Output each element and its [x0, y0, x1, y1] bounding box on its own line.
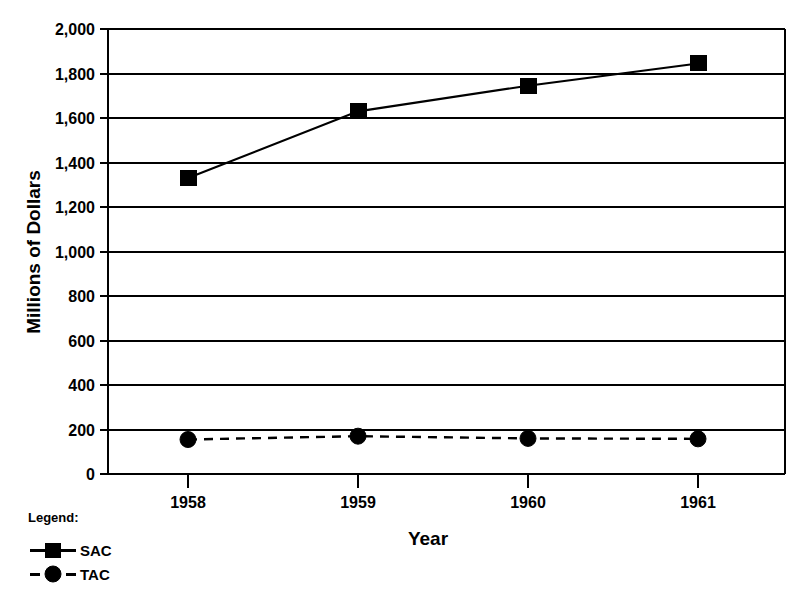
legend-label-tac: TAC — [80, 566, 110, 583]
y-tick-label-1600: 1,600 — [55, 110, 95, 127]
data-point-sac-1959 — [350, 104, 366, 119]
data-point-tac-1959 — [350, 428, 366, 444]
line-chart: 2,000 1,800 1,600 1,400 1,200 1,000 800 … — [0, 0, 800, 596]
y-tick-label-1800: 1,800 — [55, 66, 95, 83]
y-tick-label-0: 0 — [86, 466, 95, 483]
y-tick-label-800: 800 — [68, 288, 95, 305]
data-point-sac-1961 — [690, 56, 706, 71]
y-tick-label-2000: 2,000 — [55, 21, 95, 38]
legend-label-sac: SAC — [80, 542, 112, 559]
data-point-sac-1958 — [180, 171, 196, 186]
data-point-sac-1960 — [520, 78, 536, 93]
chart-container: 2,000 1,800 1,600 1,400 1,200 1,000 800 … — [0, 0, 800, 596]
x-tick-label-1961: 1961 — [680, 494, 716, 511]
data-point-tac-1960 — [520, 430, 536, 446]
y-tick-label-1400: 1,400 — [55, 155, 95, 172]
y-tick-label-400: 400 — [68, 377, 95, 394]
legend-title: Legend: — [28, 510, 79, 525]
x-tick-label-1960: 1960 — [510, 494, 546, 511]
legend-circle-marker-icon — [45, 566, 61, 582]
y-tick-label-200: 200 — [68, 422, 95, 439]
y-tick-label-1200: 1,200 — [55, 199, 95, 216]
x-axis-title: Year — [408, 528, 449, 549]
data-point-tac-1958 — [180, 432, 196, 448]
legend-square-marker-icon — [45, 543, 60, 557]
x-tick-label-1959: 1959 — [340, 494, 376, 511]
y-axis-title: Millions of Dollars — [23, 170, 44, 334]
x-tick-label-1958: 1958 — [170, 494, 206, 511]
y-tick-label-600: 600 — [68, 333, 95, 350]
data-point-tac-1961 — [690, 431, 706, 447]
y-tick-label-1000: 1,000 — [55, 244, 95, 261]
